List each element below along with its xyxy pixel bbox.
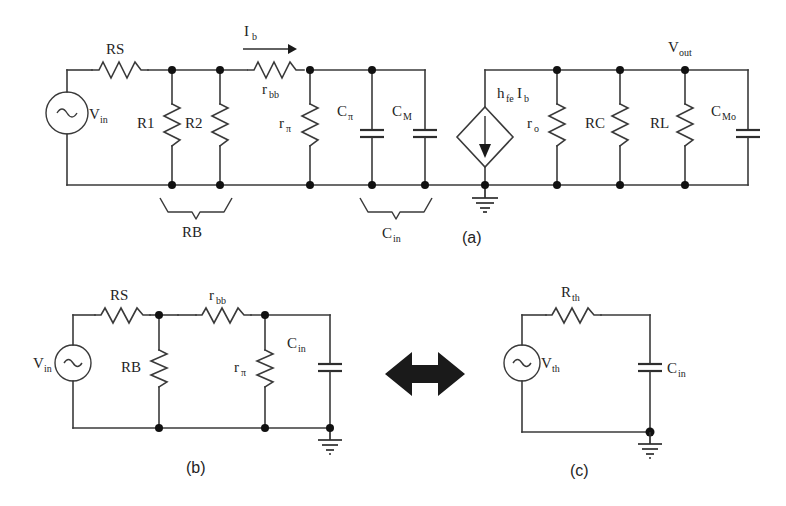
brace-Cin-a: C in	[360, 198, 432, 244]
brace-RB-path	[160, 198, 232, 219]
label-c-vth-sub: th	[552, 363, 560, 374]
label-a-ro: r	[527, 115, 532, 131]
label-a-hfe: h	[497, 85, 505, 101]
node-dot	[326, 424, 334, 432]
resistor-a-RC	[612, 104, 628, 146]
label-a-Cpi-sub: π	[348, 111, 353, 122]
label-b-vin-sub: in	[44, 363, 52, 374]
resistor-b-RB	[151, 350, 167, 387]
node-dot	[261, 424, 269, 432]
node-dot	[681, 66, 689, 74]
resistor-a-rpi	[302, 104, 318, 146]
label-b-rpi-sub: π	[241, 367, 246, 378]
label-c-vth: V	[541, 355, 552, 371]
label-b-RB: RB	[121, 359, 141, 375]
node-dot	[681, 181, 689, 189]
resistor-b-rbb	[196, 308, 251, 323]
label-a-Ib-sub: b	[252, 31, 257, 42]
node-dot	[616, 66, 624, 74]
label-a-rbb: r	[262, 81, 267, 97]
label-c-Rth-sub: th	[572, 292, 580, 303]
label-a-CM-sub: M	[403, 111, 412, 122]
brace-RB: RB	[160, 198, 232, 240]
label-brace-RB: RB	[182, 224, 202, 240]
label-b-Cin-sub: in	[298, 343, 306, 354]
circuit-a: V in RS r bb I b R1 R2 r π C	[46, 23, 760, 246]
ac-source-b-vin-sine	[64, 360, 82, 367]
label-a-Cpi: C	[337, 103, 347, 119]
label-c-Rth: R	[561, 284, 571, 300]
label-a-vout: V	[668, 39, 679, 55]
circuit-b: V in RS r bb RB r π C in	[33, 287, 342, 476]
label-a-ro-sub: o	[534, 123, 539, 134]
panel-label-b: (b)	[186, 459, 206, 476]
label-b-RS: RS	[110, 287, 128, 303]
dependent-source-a-arrow-head	[479, 144, 491, 158]
label-a-R2: R2	[185, 115, 203, 131]
node-dot	[261, 311, 269, 319]
node-dot	[616, 181, 624, 189]
label-c-Cin: C	[667, 360, 677, 376]
label-brace-Cin-a: C	[382, 225, 392, 241]
resistor-b-RS	[95, 308, 150, 323]
resistor-a-RS	[92, 62, 148, 78]
label-a-R1: R1	[137, 115, 155, 131]
node-dot	[306, 66, 314, 74]
node-dot	[421, 181, 429, 189]
ac-source-c-vth-sine	[513, 360, 531, 367]
node-dot	[481, 181, 489, 189]
resistor-c-Rth	[546, 308, 601, 323]
label-a-Ib: I	[244, 23, 249, 39]
label-a-CMo: C	[711, 103, 721, 119]
node-dot	[216, 181, 224, 189]
label-a-vin: V	[89, 106, 100, 122]
resistor-a-ro	[549, 104, 565, 146]
label-b-rpi: r	[234, 359, 239, 375]
label-b-rbb: r	[209, 287, 214, 303]
node-dot	[155, 424, 163, 432]
label-a-RC: RC	[585, 115, 605, 131]
resistor-a-RL	[677, 104, 693, 146]
label-a-rbb-sub: bb	[269, 89, 279, 100]
label-a-vin-sub: in	[100, 114, 108, 125]
node-dot	[553, 181, 561, 189]
label-a-CM: C	[392, 103, 402, 119]
ground-symbol-a	[472, 185, 498, 212]
panel-label-c: (c)	[570, 462, 589, 479]
label-a-hfe-sub: fe	[506, 93, 514, 104]
node-dot	[306, 181, 314, 189]
equivalence-arrow	[385, 352, 465, 396]
node-dot	[155, 311, 163, 319]
circuit-figure: V in RS r bb I b R1 R2 r π C	[0, 0, 786, 506]
circuit-c: R th V th C in (c)	[504, 284, 686, 479]
figure-canvas: V in RS r bb I b R1 R2 r π C	[0, 0, 786, 506]
ground-symbol-c	[638, 432, 662, 458]
resistor-a-R2	[212, 104, 228, 146]
arrow-a-Ib-head	[288, 44, 297, 54]
node-dot	[368, 66, 376, 74]
ac-source-a-vin-sine	[57, 109, 77, 117]
node-dot	[553, 66, 561, 74]
label-a-rpi-sub: π	[286, 123, 291, 134]
brace-Cin-a-path	[360, 198, 432, 219]
node-dot	[368, 181, 376, 189]
node-dot	[168, 181, 176, 189]
node-dot	[168, 66, 176, 74]
label-a-rpi: r	[279, 115, 284, 131]
label-a-RL: RL	[650, 115, 669, 131]
label-c-Cin-sub: in	[678, 368, 686, 379]
label-a-RS: RS	[106, 41, 124, 57]
label-b-Cin: C	[287, 335, 297, 351]
label-brace-Cin-a-sub: in	[393, 233, 401, 244]
label-a-hfe-ib-sub: b	[524, 93, 529, 104]
label-b-vin: V	[33, 355, 44, 371]
label-a-vout-sub: out	[679, 47, 692, 58]
resistor-a-R1	[164, 104, 180, 146]
label-a-hfe-ib: I	[517, 85, 522, 101]
label-b-rbb-sub: bb	[216, 295, 226, 306]
node-dot	[216, 66, 224, 74]
label-a-CMo-sub: Mo	[722, 111, 736, 122]
panel-label-a: (a)	[462, 229, 482, 246]
resistor-b-rpi	[257, 350, 273, 387]
double-headed-arrow-icon	[385, 352, 465, 396]
